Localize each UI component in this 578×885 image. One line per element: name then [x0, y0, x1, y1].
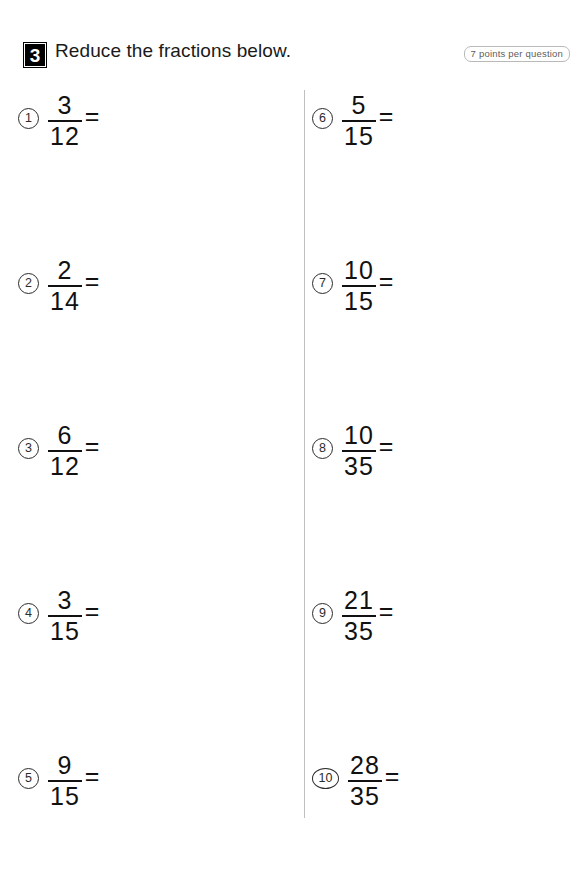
- fraction-denominator: 15: [48, 783, 82, 810]
- fraction-problem: 6515=: [312, 92, 562, 257]
- fraction: 1015: [342, 257, 376, 315]
- fraction: 515: [342, 92, 376, 150]
- fraction: 2835: [348, 752, 382, 810]
- worksheet-header: 3 Reduce the fractions below. 7 points p…: [0, 40, 578, 74]
- fraction: 214: [48, 257, 82, 315]
- problem-index-label: 2: [25, 277, 32, 290]
- fraction-problem: 2214=: [18, 257, 288, 422]
- fraction: 612: [48, 422, 82, 480]
- fraction-denominator: 15: [48, 618, 82, 645]
- fraction-denominator: 12: [48, 453, 82, 480]
- fraction-numerator: 10: [342, 422, 376, 449]
- problem-index-circle: 9: [312, 603, 333, 624]
- equals-sign: =: [85, 104, 100, 129]
- problem-index-circle: 2: [18, 273, 39, 294]
- fraction-denominator: 15: [342, 288, 376, 315]
- problem-index-circle: 7: [312, 273, 333, 294]
- fraction-numerator: 2: [55, 257, 74, 284]
- fraction-problem: 71015=: [312, 257, 562, 422]
- fraction-problem: 5915=: [18, 752, 288, 885]
- problem-index-label: 3: [25, 442, 32, 455]
- points-per-question-badge: 7 points per question: [464, 46, 570, 62]
- fraction-problem: 3612=: [18, 422, 288, 587]
- fraction: 315: [48, 587, 82, 645]
- fraction-denominator: 12: [48, 123, 82, 150]
- problem-row: 6515=: [312, 92, 393, 150]
- fraction-problem: 92135=: [312, 587, 562, 752]
- column-divider: [304, 90, 305, 818]
- fraction-denominator: 15: [342, 123, 376, 150]
- problem-index-circle: 10: [312, 768, 339, 789]
- problem-row: 1312=: [18, 92, 99, 150]
- problem-index-label: 8: [319, 442, 326, 455]
- problem-index-circle: 3: [18, 438, 39, 459]
- problem-row: 3612=: [18, 422, 99, 480]
- equals-sign: =: [85, 764, 100, 789]
- equals-sign: =: [85, 434, 100, 459]
- problem-index-label: 6: [319, 112, 326, 125]
- problem-index-circle: 8: [312, 438, 333, 459]
- problem-index-label: 7: [319, 277, 326, 290]
- problem-index-label: 1: [25, 112, 32, 125]
- fraction-numerator: 3: [55, 92, 74, 119]
- right-problem-column: 6515=71015=81035=92135=102835=: [312, 92, 562, 885]
- fraction-numerator: 10: [342, 257, 376, 284]
- problem-index-label: 4: [25, 607, 32, 620]
- problem-row: 2214=: [18, 257, 99, 315]
- fraction-denominator: 14: [48, 288, 82, 315]
- equals-sign: =: [379, 104, 394, 129]
- problem-index-circle: 6: [312, 108, 333, 129]
- section-number: 3: [30, 46, 41, 65]
- fraction: 312: [48, 92, 82, 150]
- problem-row: 71015=: [312, 257, 393, 315]
- problem-row: 4315=: [18, 587, 99, 645]
- problem-row: 81035=: [312, 422, 393, 480]
- fraction-problem: 4315=: [18, 587, 288, 752]
- equals-sign: =: [385, 764, 400, 789]
- problem-row: 5915=: [18, 752, 99, 810]
- fraction: 1035: [342, 422, 376, 480]
- fraction-numerator: 6: [55, 422, 74, 449]
- problem-index-circle: 1: [18, 108, 39, 129]
- problem-index-label: 10: [319, 772, 333, 785]
- fraction-denominator: 35: [348, 783, 382, 810]
- fraction-numerator: 9: [55, 752, 74, 779]
- left-problem-column: 1312=2214=3612=4315=5915=: [18, 92, 288, 885]
- equals-sign: =: [379, 599, 394, 624]
- problem-index-circle: 5: [18, 768, 39, 789]
- problem-index-circle: 4: [18, 603, 39, 624]
- section-number-box: 3: [23, 42, 47, 68]
- fraction-denominator: 35: [342, 618, 376, 645]
- fraction-problem: 81035=: [312, 422, 562, 587]
- equals-sign: =: [85, 269, 100, 294]
- problem-row: 102835=: [312, 752, 399, 810]
- problem-row: 92135=: [312, 587, 393, 645]
- equals-sign: =: [379, 269, 394, 294]
- problem-index-label: 9: [319, 607, 326, 620]
- fraction-numerator: 3: [55, 587, 74, 614]
- fraction-denominator: 35: [342, 453, 376, 480]
- equals-sign: =: [379, 434, 394, 459]
- fraction-numerator: 5: [349, 92, 368, 119]
- fraction-numerator: 28: [348, 752, 382, 779]
- page-title: Reduce the fractions below.: [55, 40, 291, 62]
- fraction-numerator: 21: [342, 587, 376, 614]
- fraction-problem: 102835=: [312, 752, 562, 885]
- fraction: 2135: [342, 587, 376, 645]
- equals-sign: =: [85, 599, 100, 624]
- fraction-problem: 1312=: [18, 92, 288, 257]
- problem-index-label: 5: [25, 772, 32, 785]
- fraction: 915: [48, 752, 82, 810]
